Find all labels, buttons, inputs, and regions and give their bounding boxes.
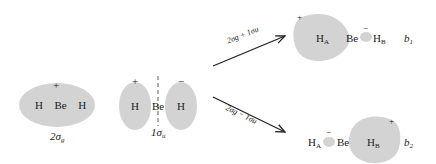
atom: H [308, 136, 316, 148]
label-main: 2σ [50, 130, 61, 142]
atom-sub: B [381, 38, 386, 46]
atom: H [367, 136, 375, 148]
label-sub: 1 [410, 38, 414, 46]
atom: H [373, 32, 381, 44]
atom: H [316, 32, 324, 44]
atom-sub: B [375, 142, 380, 150]
label-sub: 2 [410, 142, 414, 150]
orbital-1su-sign-right: − [178, 76, 184, 87]
hybrid-b2-label: b2 [404, 137, 413, 148]
orbital-2sg-label: 2σg [50, 131, 64, 142]
hybrid-b1-atom-b: HB [373, 33, 386, 44]
atom-sub: A [324, 38, 329, 46]
hybrid-b1-small-lobe [360, 32, 372, 42]
orbital-2sg-atoms: H Be H [35, 100, 86, 111]
atom-sub: A [316, 142, 321, 150]
hybrid-b1-sign-small: − [363, 24, 368, 33]
orbital-1su-sign-left: + [132, 76, 138, 87]
hybrid-b2-atom-a: HA [308, 137, 321, 148]
hybrid-b2-sign-small: − [326, 128, 331, 137]
arrow-up [213, 36, 285, 66]
hybrid-b2-sign-large: + [389, 117, 394, 126]
hybrid-b2-atom-b: HB [367, 137, 380, 148]
orbital-1su-atom-right: H [177, 101, 185, 112]
label-sub: g [61, 136, 65, 144]
hybrid-b1-label: b1 [404, 33, 413, 44]
hybrid-b1-atom-be: Be [346, 33, 358, 44]
hybrid-b2-small-lobe [323, 137, 335, 147]
hybrid-b1-atom-a: HA [316, 33, 329, 44]
orbital-1su-atom-center: Be [152, 101, 164, 112]
hybrid-b1-sign-large: + [297, 13, 302, 22]
orbital-2sg-sign: + [53, 80, 59, 91]
orbital-1su-label: 1σu [151, 127, 165, 138]
orbital-1su-atom-left: H [131, 101, 139, 112]
label-sub: u [162, 132, 166, 140]
label-main: 1σ [151, 126, 162, 138]
hybrid-b2-atom-be: Be [337, 137, 349, 148]
